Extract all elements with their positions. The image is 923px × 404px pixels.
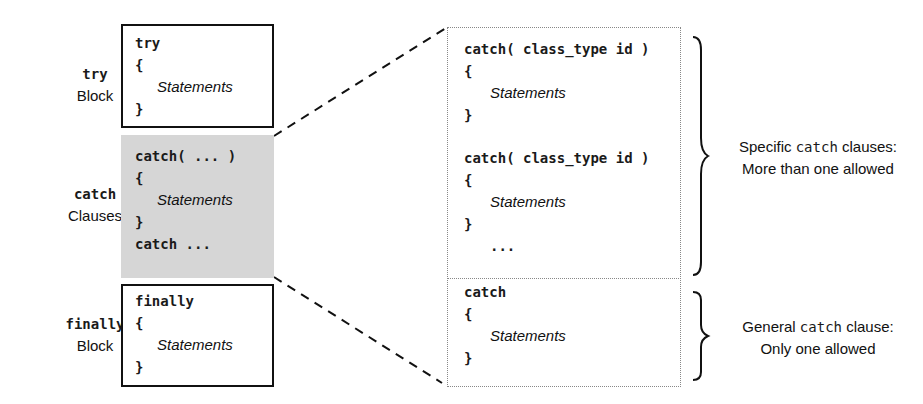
code-line: } (135, 98, 143, 120)
code-line: { (135, 312, 143, 334)
brace-general-icon (693, 292, 708, 380)
specific-catch-note: Specific catch clauses: More than one al… (713, 136, 923, 179)
statements-placeholder: Statements (157, 76, 233, 98)
note-text: More than one allowed (713, 158, 923, 179)
code-line: catch( ... ) (135, 145, 236, 167)
note-text: clauses: (838, 138, 897, 155)
finally-box: finally { Statements } (121, 284, 274, 387)
code-line: { (135, 167, 143, 189)
code-line: } (135, 211, 143, 233)
code-line: } (135, 356, 143, 378)
catch-keyword: catch (796, 139, 838, 155)
code-line: } (464, 104, 472, 126)
note-text: clause: (842, 318, 894, 335)
general-catch-note: General catch clause: Only one allowed (713, 316, 923, 359)
note-text: General (742, 318, 800, 335)
ellipsis: ... (490, 235, 515, 257)
code-line: { (464, 169, 472, 191)
statements-placeholder: Statements (490, 325, 566, 347)
statements-placeholder: Statements (157, 334, 233, 356)
catch-keyword: catch (800, 319, 842, 335)
code-line: { (135, 54, 143, 76)
catch-clauses-box: catch( ... ) { Statements } catch ... (121, 135, 274, 278)
statements-placeholder: Statements (490, 191, 566, 213)
specific-catch-detail-box: catch( class_type id ) { Statements } ca… (447, 27, 681, 279)
brace-specific-icon (693, 37, 708, 275)
code-line: catch ... (135, 233, 211, 255)
dashed-connector-top (274, 28, 446, 136)
statements-placeholder: Statements (157, 189, 233, 211)
code-line: } (464, 213, 472, 235)
code-line: try (135, 32, 160, 54)
try-box: try { Statements } (121, 24, 274, 128)
code-line: { (464, 303, 472, 325)
note-text: Only one allowed (713, 338, 923, 359)
statements-placeholder: Statements (490, 82, 566, 104)
code-line: finally (135, 290, 194, 312)
code-line: { (464, 60, 472, 82)
dashed-connector-bottom (274, 277, 442, 383)
general-catch-detail-box: catch { Statements } (447, 278, 681, 387)
note-text: Specific (739, 138, 796, 155)
code-line: } (464, 347, 472, 369)
code-line: catch (464, 281, 506, 303)
code-line: catch( class_type id ) (464, 147, 649, 169)
code-line: catch( class_type id ) (464, 38, 649, 60)
